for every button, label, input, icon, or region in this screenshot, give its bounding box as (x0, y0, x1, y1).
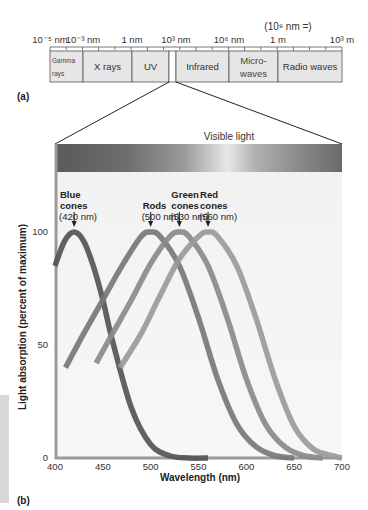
zoom-line-left (55, 82, 169, 144)
scale-label: 10⁻⁵ nm (32, 34, 67, 45)
x-tick: 500 (143, 461, 159, 472)
x-tick: 550 (191, 461, 207, 472)
y-tick: 50 (37, 339, 48, 350)
scale-note: (10⁹ nm =) (264, 21, 311, 32)
x-tick-labels: 400450500550600650700 (47, 461, 350, 472)
svg-text:(420 nm): (420 nm) (59, 211, 97, 222)
svg-text:(560 nm): (560 nm) (199, 211, 237, 222)
band-visible (169, 51, 176, 82)
x-tick: 600 (238, 461, 254, 472)
band-microwaves: Micro-waves (229, 51, 278, 82)
svg-text:rays: rays (52, 70, 65, 78)
svg-text:Rods: Rods (143, 200, 167, 211)
scale-label: 10³ m (330, 34, 354, 45)
svg-text:Infrared: Infrared (186, 61, 219, 72)
svg-text:Green: Green (171, 189, 199, 200)
svg-text:Red: Red (200, 189, 218, 200)
y-tick: 100 (32, 226, 48, 237)
band-uv: UV (132, 51, 169, 82)
x-tick: 450 (95, 461, 111, 472)
scale-ticks (50, 47, 342, 51)
svg-text:cones: cones (171, 200, 198, 211)
panel-a-label: (a) (17, 91, 29, 102)
visible-spectrum-bar (55, 144, 342, 172)
x-axis-label: Wavelength (nm) (160, 472, 240, 483)
svg-text:waves: waves (239, 68, 267, 79)
absorption-chart: Bluecones(420 nm)Rods(500 nm)Greencones(… (0, 140, 368, 510)
y-tick: 0 (43, 452, 48, 463)
svg-text:Radio waves: Radio waves (283, 61, 338, 72)
svg-text:Blue: Blue (60, 189, 81, 200)
svg-text:Micro-: Micro- (240, 55, 266, 66)
scale-label: 10⁶ nm (214, 34, 244, 45)
x-tick: 700 (334, 461, 350, 472)
wavelength-scale-labels: 10⁻⁵ nm10⁻³ nm1 nm10³ nm10⁶ nm1 m10³ m (32, 34, 354, 45)
svg-text:Gamma: Gamma (52, 57, 76, 64)
y-tick-labels: 050100 (32, 226, 48, 463)
y-axis-label: Light absorption (percent of maximum) (17, 224, 28, 410)
band-x-rays: X rays (83, 51, 132, 82)
scale-label: 10⁻³ nm (66, 34, 101, 45)
spectrum-bands: GammaraysX raysUVInfraredMicro-wavesRadi… (50, 51, 342, 82)
svg-text:cones: cones (60, 200, 87, 211)
svg-text:X rays: X rays (94, 61, 121, 72)
scale-label: 10³ nm (161, 34, 191, 45)
svg-text:UV: UV (144, 61, 158, 72)
scale-label: 1 m (270, 34, 286, 45)
x-tick: 650 (286, 461, 302, 472)
svg-text:cones: cones (200, 200, 227, 211)
scale-label: 1 nm (121, 34, 142, 45)
band-infrared: Infrared (176, 51, 229, 82)
band-gamma-rays: Gammarays (50, 51, 83, 82)
panel-b-label: (b) (17, 495, 30, 506)
band-radio-waves: Radio waves (278, 51, 342, 82)
x-tick: 400 (47, 461, 63, 472)
